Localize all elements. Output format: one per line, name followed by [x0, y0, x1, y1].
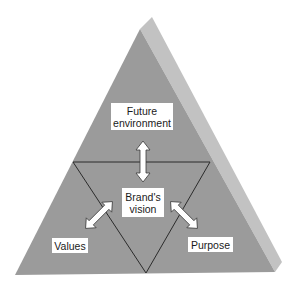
future-environment-line1: Future: [127, 105, 157, 117]
brands-vision-line2: vision: [130, 203, 157, 215]
purpose-label: Purpose: [188, 237, 233, 252]
future-environment-line2: environment: [113, 117, 171, 129]
pyramid-diagram: [0, 0, 294, 287]
values-label: Values: [52, 238, 88, 253]
brands-vision-label: Brand's vision: [122, 188, 164, 217]
brands-vision-line1: Brand's: [125, 191, 160, 203]
future-environment-label: Future environment: [111, 103, 173, 130]
